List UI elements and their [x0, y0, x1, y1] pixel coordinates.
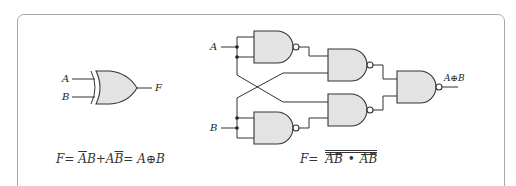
junction-dot: [235, 55, 239, 59]
nand3-output-wire: [373, 65, 397, 79]
xor-gate-symbol: A B F: [61, 71, 163, 104]
nand4-bubble: [367, 107, 373, 113]
xor-input-b-label: B: [61, 91, 69, 102]
equation-equals: =: [123, 152, 133, 166]
equation-term1-negated: A: [78, 152, 87, 166]
xor-output-label: F: [154, 82, 163, 93]
nand2-output-wire: [299, 118, 328, 128]
equation-nand-term1: AB: [325, 152, 342, 166]
equation-result: A⊕B: [137, 152, 165, 166]
equation-lhs: F=: [300, 152, 318, 166]
cross-wire-b-to-nand3: [237, 73, 328, 98]
equation-plus: +: [96, 152, 106, 166]
nand5-gate: [397, 71, 436, 103]
equation-term1-plain: B: [87, 152, 96, 166]
nand-equation: F= AB•AB: [300, 152, 377, 166]
nand1-gate: [254, 31, 293, 63]
xor-gate-body: [96, 71, 137, 104]
equation-outer-negation: AB•AB: [325, 152, 377, 166]
equation-lhs: F=: [56, 152, 74, 166]
xor-equation: F= AB+AB= A⊕B: [56, 152, 165, 166]
junction-dot: [235, 45, 239, 49]
output-label: A⊕B: [443, 73, 465, 83]
nand3-bubble: [367, 62, 373, 68]
nand4-gate: [328, 94, 367, 126]
nand1-output-wire: [299, 47, 328, 56]
nand2-gate: [254, 112, 293, 144]
nand-xor-circuit: A B A: [209, 31, 465, 144]
nand2-bubble: [293, 125, 299, 131]
xor-extra-arc: [91, 71, 95, 104]
cross-wire-a-to-nand4: [237, 75, 328, 102]
nand1-bubble: [293, 44, 299, 50]
equation-term2-negated: B: [114, 152, 123, 166]
junction-dot: [235, 126, 239, 130]
equation-and-dot: •: [348, 152, 355, 166]
nand4-output-wire: [373, 96, 397, 110]
nand3-gate: [328, 49, 367, 81]
equation-nand-term2: AB: [360, 152, 377, 166]
nand-input-a-label: A: [209, 41, 217, 52]
nand-input-b-label: B: [209, 122, 217, 133]
xor-input-a-label: A: [61, 73, 69, 84]
nand5-bubble: [436, 84, 442, 90]
junction-dot: [235, 116, 239, 120]
